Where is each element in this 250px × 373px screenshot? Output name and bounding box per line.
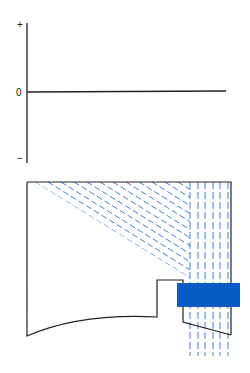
right-lower-edge — [183, 307, 231, 335]
diagonal-hatching — [35, 182, 250, 281]
graph-axes: + 0 − — [16, 19, 226, 164]
plus-label: + — [17, 19, 23, 30]
vertical-dashed-lines — [190, 182, 228, 356]
top-right-edge — [27, 182, 231, 335]
minus-label: − — [17, 153, 23, 164]
zero-label: 0 — [16, 87, 22, 98]
diagram-canvas: + 0 − — [0, 0, 250, 373]
cross-section-outline — [27, 182, 231, 336]
zero-line — [27, 91, 226, 92]
blue-block — [177, 283, 240, 307]
